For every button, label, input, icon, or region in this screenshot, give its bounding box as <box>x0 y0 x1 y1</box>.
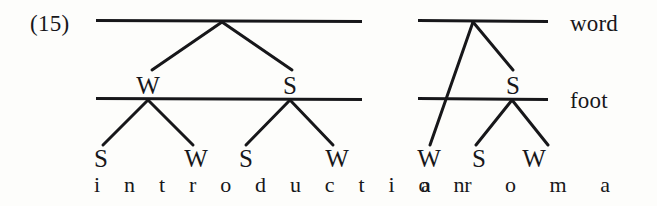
foot2-branch-s <box>246 100 290 145</box>
foot3-branch-s <box>476 100 512 145</box>
node-label-foot-right-s: S <box>498 73 528 98</box>
word-tier-line-right <box>418 21 548 22</box>
node-label-syll-right-3: W <box>519 146 549 171</box>
foot1-branch-s <box>103 100 148 145</box>
node-label-syll-left-1: S <box>86 146 116 171</box>
example-number: (15) <box>30 12 70 35</box>
foot3-branch-w <box>512 100 548 145</box>
word-text-aroma: a r o m a <box>421 174 624 196</box>
word-text-introduction: i n t r o d u c t i o n <box>94 174 474 196</box>
node-label-foot-left-w: W <box>133 73 163 98</box>
tier-label-foot: foot <box>570 89 608 112</box>
node-label-syll-right-1: W <box>414 146 444 171</box>
foot2-branch-w <box>290 100 333 145</box>
foot-tier-line-right <box>418 99 548 100</box>
word-branch-left-s <box>222 22 292 70</box>
foot1-branch-w <box>148 100 193 145</box>
tier-label-word: word <box>570 12 618 35</box>
node-label-syll-left-3: S <box>231 146 261 171</box>
word-tier-line-left <box>96 21 362 22</box>
figure-container: (15) W S S W S W i n t r o d u c t i o n… <box>0 0 657 206</box>
node-label-foot-left-s: S <box>275 73 305 98</box>
word-branch-right-w-crossing <box>430 22 473 145</box>
word-branch-right-s <box>473 22 513 70</box>
node-label-syll-left-4: W <box>322 146 352 171</box>
word-branch-left-w <box>152 22 222 70</box>
node-label-syll-right-2: S <box>464 146 494 171</box>
node-label-syll-left-2: W <box>181 146 211 171</box>
